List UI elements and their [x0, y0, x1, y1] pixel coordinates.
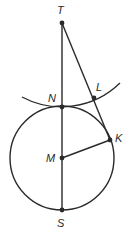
diagram-labels: TNLKMS	[46, 4, 123, 229]
label-t: T	[57, 4, 65, 16]
label-l: L	[96, 81, 102, 93]
arc-centered-t	[22, 83, 120, 107]
point-s	[60, 208, 65, 213]
point-n	[60, 105, 65, 110]
point-l	[92, 96, 97, 101]
point-m	[60, 156, 65, 161]
point-k	[108, 138, 113, 143]
segment-mk	[62, 140, 110, 158]
diagram-shapes	[10, 21, 120, 213]
point-t	[60, 21, 65, 26]
label-k: K	[115, 132, 123, 144]
segment-tk	[62, 23, 110, 140]
label-n: N	[48, 92, 56, 104]
label-s: S	[57, 217, 65, 229]
label-m: M	[46, 152, 56, 164]
geometry-diagram: TNLKMS	[0, 0, 134, 236]
